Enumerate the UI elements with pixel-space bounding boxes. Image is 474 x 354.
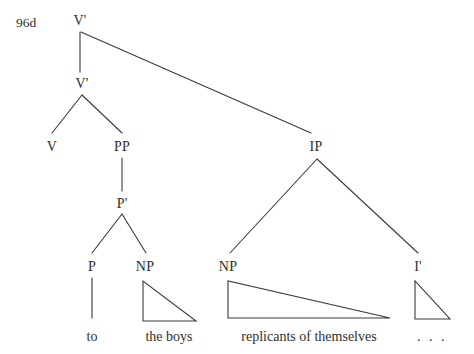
edge-pbar-to-p: [92, 214, 122, 253]
triangle-np-the-boys: [143, 281, 196, 321]
node-pbar: P': [117, 197, 128, 211]
node-vbar-lower: V': [75, 77, 88, 91]
node-v: V: [47, 140, 57, 154]
triangle-ibar-ellipsis: [415, 281, 450, 319]
node-pp: PP: [114, 140, 130, 154]
node-np-right: NP: [219, 260, 237, 274]
terminal-the-boys: the boys: [145, 330, 192, 344]
terminal-to: to: [87, 330, 98, 344]
terminal-ellipsis: . . .: [417, 330, 447, 344]
edge-pbar-to-np: [122, 214, 146, 253]
node-ibar: I': [414, 260, 422, 274]
terminal-replicants: replicants of themselves: [241, 330, 376, 344]
edge-vbar-top-to-ip: [81, 32, 311, 133]
node-ip: IP: [310, 140, 323, 154]
syntax-tree-figure: 96d V' V' V PP P' P NP IP NP I': [0, 0, 474, 354]
node-vbar-top: V': [73, 14, 86, 28]
node-p: P: [88, 260, 96, 274]
triangle-np-replicants: [228, 281, 390, 318]
tree-lines-svg: [0, 0, 474, 354]
node-np-left: NP: [136, 260, 154, 274]
edge-ip-to-ibar: [317, 159, 418, 253]
edge-ip-to-np: [230, 159, 317, 253]
edge-vbar-lower-to-v: [52, 95, 82, 133]
edge-vbar-lower-to-pp: [82, 95, 122, 133]
